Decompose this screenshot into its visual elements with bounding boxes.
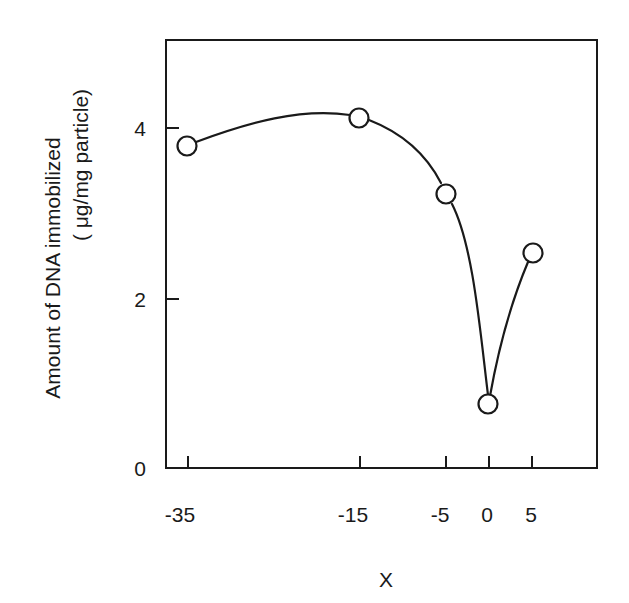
data-point: [178, 137, 197, 156]
x-tick-label: -35: [165, 503, 195, 526]
data-markers: [178, 109, 543, 414]
data-point: [479, 395, 498, 414]
data-point: [524, 244, 543, 263]
x-tick-label: -5: [431, 503, 450, 526]
data-point: [437, 185, 456, 204]
y-axis-unit: ( μg/mg particle): [69, 89, 92, 241]
y-axis-ticks: [166, 128, 179, 299]
x-tick-label: 0: [481, 503, 493, 526]
x-tick-label: -15: [338, 503, 368, 526]
chart: 4 2 0 -35 -15 -5 0 5 X Amount of DNA imm…: [0, 0, 629, 603]
x-axis-title: X: [379, 568, 393, 591]
x-axis-ticks: [188, 456, 532, 468]
y-tick-label: 4: [134, 117, 146, 140]
y-tick-label: 0: [134, 457, 146, 480]
y-tick-label: 2: [134, 288, 146, 311]
x-tick-label: 5: [525, 503, 537, 526]
y-axis-title: Amount of DNA immobilized: [41, 137, 64, 398]
data-point: [350, 109, 369, 128]
data-curve: [196, 113, 528, 396]
